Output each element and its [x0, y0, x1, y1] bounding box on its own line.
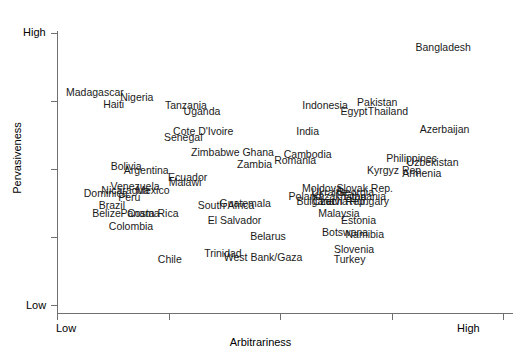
x-axis-title: Arbitrariness: [0, 336, 521, 348]
data-point-label: West Bank/Gaza: [224, 251, 303, 262]
data-point-label: Namibia: [345, 228, 384, 239]
x-axis-tick: [503, 314, 504, 320]
data-point-label: Armenia: [402, 168, 441, 179]
y-axis-tick: [51, 169, 57, 170]
y-axis-low-label: Low: [26, 299, 46, 311]
data-point-label: Romania: [274, 155, 316, 166]
data-point-label: Nigeria: [120, 91, 153, 102]
y-axis-title: Pervasiveness: [11, 108, 23, 208]
y-axis-tick: [51, 33, 57, 34]
data-point-label: Malawi: [169, 177, 202, 188]
data-point-label: Latvia: [320, 196, 348, 207]
data-point-label: Egypt: [341, 106, 368, 117]
data-point-label: Guatemala: [220, 198, 271, 209]
data-point-label: Haiti: [103, 99, 124, 110]
data-point-label: Colombia: [109, 220, 153, 231]
data-point-label: Belize: [92, 207, 121, 218]
data-point-label: Ghana: [242, 147, 274, 158]
x-axis-high-label: High: [457, 322, 480, 334]
scatter-plot-chart: High Low Low High Arbitrariness Pervasiv…: [0, 0, 521, 361]
y-axis-tick: [51, 305, 57, 306]
x-axis-line: [57, 313, 513, 314]
data-point-label: Uganda: [184, 106, 221, 117]
data-point-label: El Salvador: [208, 215, 262, 226]
y-axis-line: [57, 31, 58, 314]
y-axis-tick: [51, 101, 57, 102]
x-axis-low-label: Low: [56, 322, 76, 334]
data-point-label: Madagascar: [66, 86, 124, 97]
data-point-label: Senegal: [164, 131, 203, 142]
data-point-label: Turkey: [334, 253, 366, 264]
data-point-label: Chile: [158, 253, 182, 264]
x-axis-tick: [280, 314, 281, 320]
data-point-label: Hungary: [349, 196, 389, 207]
data-point-label: Zimbabwe: [191, 147, 239, 158]
data-point-label: Thailand: [368, 106, 408, 117]
data-point-label: Estonia: [341, 215, 376, 226]
data-point-label: Mexico: [136, 184, 169, 195]
x-axis-tick: [169, 314, 170, 320]
data-point-label: Costa Rica: [127, 207, 178, 218]
data-point-label: Azerbaijan: [420, 124, 470, 135]
data-point-label: Belarus: [250, 230, 286, 241]
x-axis-tick: [392, 314, 393, 320]
data-point-label: Bangladesh: [416, 42, 471, 53]
y-axis-high-label: High: [23, 26, 46, 38]
data-point-label: India: [296, 126, 319, 137]
data-point-label: Argentina: [124, 164, 169, 175]
x-axis-tick: [57, 314, 58, 320]
data-point-label: Zambia: [237, 158, 272, 169]
y-axis-tick: [51, 237, 57, 238]
